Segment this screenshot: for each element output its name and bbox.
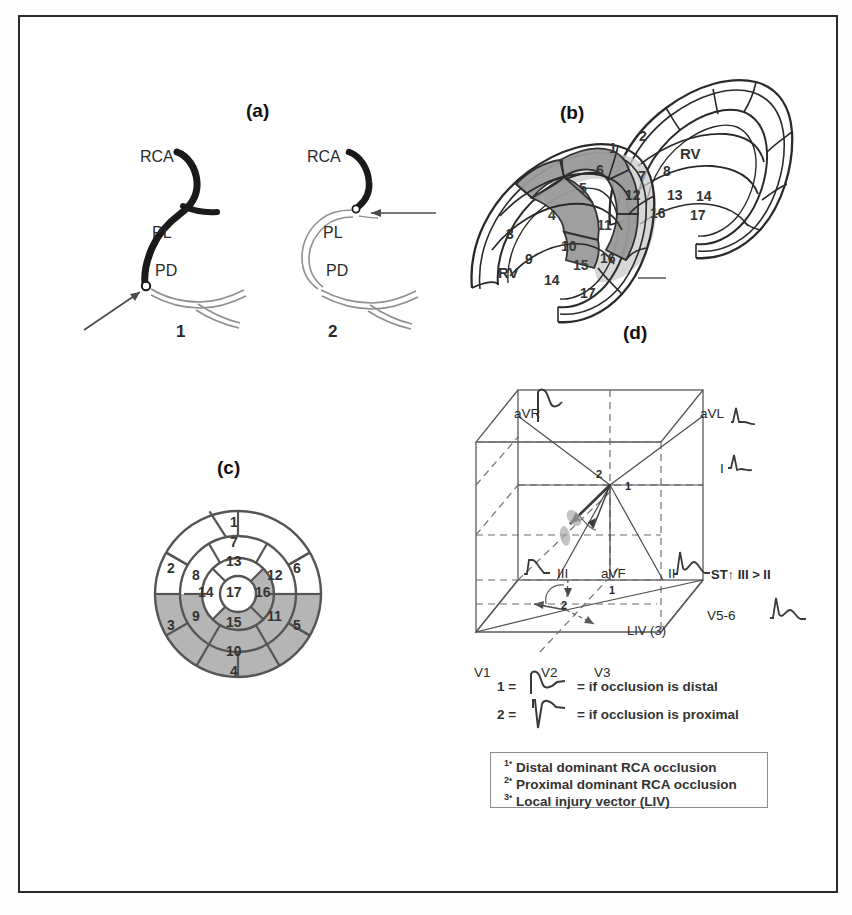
panel-d-label-II: II <box>668 566 676 581</box>
panel-a-sub2-pl-label: PL <box>323 224 343 242</box>
panel-a-sub1-rca-label: RCA <box>140 148 174 166</box>
panel-c-seg-13: 13 <box>226 553 242 569</box>
panel-d-legend-row-1: 1• Distal dominant RCA occlusion <box>504 758 716 775</box>
panel-d-label-III: III <box>557 566 568 581</box>
panel-d-vector-1-frontal: 1 <box>625 480 631 492</box>
panel-d-label-aVR: aVR <box>514 406 540 421</box>
panel-c-seg-3: 3 <box>167 617 175 633</box>
panel-b-seg-4: 4 <box>548 207 556 223</box>
panel-a-sub2-number: 2 <box>328 322 337 342</box>
panel-d-diagram <box>452 352 842 662</box>
panel-b-seg-14-right: 14 <box>696 188 712 204</box>
legend-text-1: Distal dominant RCA occlusion <box>516 760 717 775</box>
panel-label-a: (a) <box>246 100 269 122</box>
panel-a-sub1-pd-label: PD <box>155 262 177 280</box>
panel-d-svg <box>452 352 842 662</box>
panel-b-seg-12: 12 <box>625 187 641 203</box>
panel-b-seg-9: 9 <box>525 251 533 267</box>
panel-d-key-1-number: 1 = <box>497 679 516 694</box>
panel-b-rv-label-right: RV <box>680 145 701 162</box>
panel-d-key-1-waveform <box>527 668 569 696</box>
panel-d-label-aVF: aVF <box>601 566 626 581</box>
legend-mark-2: • <box>509 775 512 785</box>
panel-d-key-2-number: 2 = <box>497 707 516 722</box>
panel-label-d: (d) <box>623 322 647 344</box>
panel-c-seg-15: 15 <box>226 614 242 630</box>
legend-text-3: Local injury vector (LIV) <box>516 794 670 809</box>
panel-a-sub1-number: 1 <box>176 322 185 342</box>
panel-b-seg-8: 8 <box>663 163 671 179</box>
panel-b-seg-16-left: 16 <box>600 250 616 266</box>
panel-c-seg-16: 16 <box>255 584 271 600</box>
panel-b-rv-label-left: RV <box>498 264 519 281</box>
panel-b-seg-11: 11 <box>597 217 612 233</box>
panel-d-label-I: I <box>720 461 724 476</box>
figure-root: (a) <box>0 0 852 915</box>
panel-c-seg-7: 7 <box>230 534 238 550</box>
panel-c-seg-12: 12 <box>267 567 283 583</box>
panel-a-sub2-pd-label: PD <box>326 262 348 280</box>
panel-b-seg-13: 13 <box>667 187 683 203</box>
panel-c-seg-9: 9 <box>192 608 200 624</box>
panel-c-seg-2: 2 <box>167 560 175 576</box>
panel-d-label-V5-6: V5-6 <box>707 608 736 623</box>
legend-mark-3: • <box>509 792 512 802</box>
panel-b-left-view <box>471 144 666 322</box>
panel-d-key-2-text: = if occlusion is proximal <box>577 707 739 722</box>
panel-a-diagram <box>60 130 460 320</box>
panel-d-key-2-waveform <box>527 696 569 730</box>
panel-c-seg-11: 11 <box>267 608 282 624</box>
panel-b-seg-16-right: 16 <box>650 205 666 221</box>
panel-c-seg-14: 14 <box>198 584 214 600</box>
panel-d-label-aVL: aVL <box>700 406 724 421</box>
panel-label-c: (c) <box>217 457 240 479</box>
legend-text-2: Proximal dominant RCA occlusion <box>516 777 737 792</box>
panel-a-svg <box>60 130 460 320</box>
panel-b-seg-10: 10 <box>561 238 577 254</box>
panel-a-sub2-rca-label: RCA <box>307 148 341 166</box>
panel-b-seg-17-right: 17 <box>690 207 706 223</box>
panel-b-seg-17-left: 17 <box>580 285 596 301</box>
panel-d-vector-1-horizontal: 1 <box>609 584 615 596</box>
panel-d-liv-label: LIV (3) <box>627 623 666 638</box>
panel-a-sub1-pl-label: PL <box>152 224 172 242</box>
panel-d-label-V3: V3 <box>594 665 611 680</box>
panel-c-seg-10: 10 <box>226 643 242 659</box>
panel-c-seg-4: 4 <box>230 663 238 679</box>
panel-b-seg-15: 15 <box>573 257 589 273</box>
panel-d-legend-row-3: 3• Local injury vector (LIV) <box>504 792 670 809</box>
panel-c-seg-1: 1 <box>230 514 238 530</box>
panel-b-seg-6: 6 <box>596 162 604 178</box>
panel-b-seg-3: 3 <box>506 226 514 242</box>
panel-d-key-1-text: = if occlusion is distal <box>577 679 718 694</box>
panel-b-seg-2: 2 <box>639 128 647 144</box>
panel-c-seg-6: 6 <box>293 560 301 576</box>
panel-b-seg-5: 5 <box>579 180 587 196</box>
panel-c-seg-17: 17 <box>226 584 242 600</box>
panel-b-seg-1: 1 <box>609 140 617 156</box>
legend-mark-1: • <box>509 758 512 768</box>
panel-d-vector-2-horizontal: 2 <box>561 599 567 611</box>
panel-b-seg-14-left: 14 <box>544 272 560 288</box>
panel-d-legend-row-2: 2• Proximal dominant RCA occlusion <box>504 775 737 792</box>
panel-c-seg-8: 8 <box>192 567 200 583</box>
panel-d-vector-2-frontal: 2 <box>596 468 602 480</box>
panel-c-seg-5: 5 <box>293 617 301 633</box>
panel-b-seg-7: 7 <box>638 168 646 184</box>
panel-d-label-V1: V1 <box>474 665 491 680</box>
panel-d-st-criterion: ST↑ III > II <box>711 567 771 582</box>
